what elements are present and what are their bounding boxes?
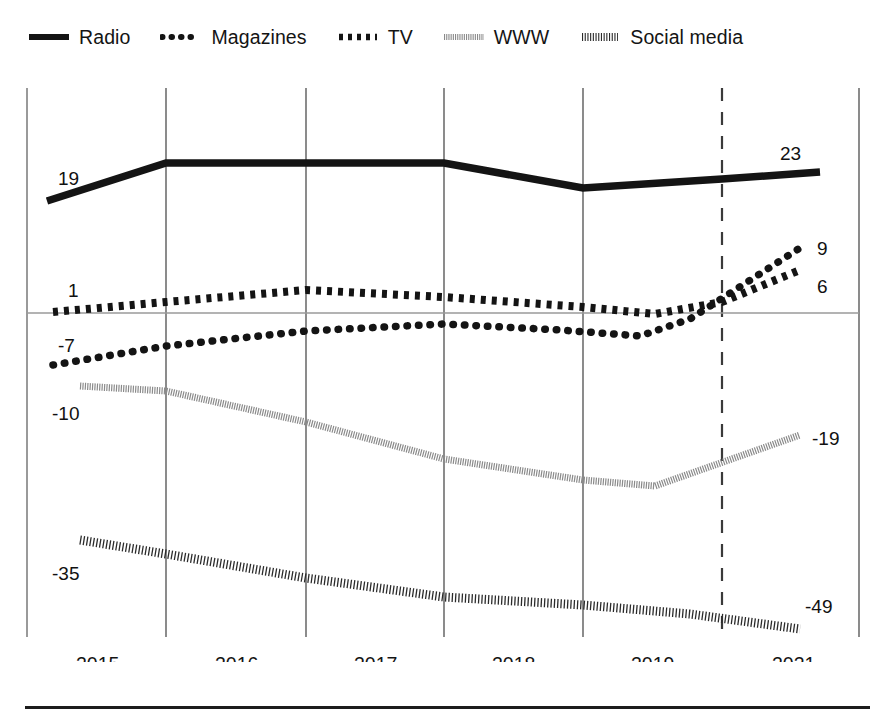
legend-item-magazines[interactable]: Magazines	[160, 26, 306, 49]
value-label-www-end: -19	[812, 428, 839, 449]
value-label-www-start: -10	[52, 403, 79, 424]
legend-swatch-solid-icon	[28, 29, 70, 45]
value-label-magazines-start: -7	[58, 335, 75, 356]
legend-swatch-dashed-icon	[337, 29, 379, 45]
legend-label-radio: Radio	[79, 26, 130, 49]
legend-swatch-hatched-grey-icon	[443, 29, 485, 45]
value-label-radio-end: 23	[780, 143, 801, 164]
legend-swatch-dotted-icon	[160, 29, 202, 45]
series-line-tv	[53, 270, 800, 314]
xtick-label-2015: 2015	[76, 653, 120, 662]
value-label-radio-start: 19	[58, 168, 79, 189]
footer-rule	[25, 706, 870, 709]
xtick-label-2018: 2018	[492, 653, 535, 662]
series-line-social-media	[80, 540, 800, 629]
legend-swatch-hatched-dense-icon	[579, 29, 621, 45]
value-label-social-media-start: -35	[52, 563, 79, 584]
plot-area: 19 1 -7 -10 -35 23 9 6 -19 -49 2015 2016…	[0, 62, 889, 662]
value-label-magazines-end: 9	[817, 238, 828, 259]
legend-label-magazines: Magazines	[211, 26, 306, 49]
legend-item-social-media[interactable]: Social media	[579, 26, 743, 49]
legend-item-radio[interactable]: Radio	[28, 26, 130, 49]
legend-item-tv[interactable]: TV	[337, 26, 413, 49]
xtick-label-2016: 2016	[215, 653, 258, 662]
series-line-radio	[47, 163, 820, 201]
xtick-label-2021: 2021	[772, 653, 815, 662]
legend-label-social-media: Social media	[630, 26, 743, 49]
series-line-magazines	[53, 248, 800, 365]
legend-item-www[interactable]: WWW	[443, 26, 550, 49]
xtick-label-2017: 2017	[354, 653, 397, 662]
chart-container: Radio Magazines TV W	[0, 0, 889, 726]
value-label-tv-end: 6	[817, 276, 828, 297]
value-label-tv-start: 1	[68, 280, 79, 301]
value-label-social-media-end: -49	[805, 596, 832, 617]
chart-legend: Radio Magazines TV W	[28, 20, 868, 54]
xtick-label-2019: 2019	[631, 653, 674, 662]
series-line-www	[80, 386, 800, 486]
legend-label-tv: TV	[388, 26, 413, 49]
legend-label-www: WWW	[494, 26, 550, 49]
plot-svg: 19 1 -7 -10 -35 23 9 6 -19 -49 2015 2016…	[0, 62, 889, 662]
